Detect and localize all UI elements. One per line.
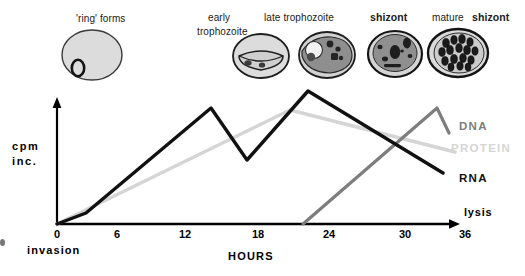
x-tick-36: 36 <box>459 228 471 240</box>
legend-label-dna: DNA <box>459 120 488 132</box>
x-axis-start-annotation: invasion <box>27 244 80 256</box>
legend-label-rna: RNA <box>459 172 488 184</box>
x-tick-12: 12 <box>179 228 191 240</box>
legend-label-protein: PROTEIN <box>451 142 511 154</box>
x-axis-end-annotation: lysis <box>464 206 492 218</box>
x-tick-0: 0 <box>54 228 60 240</box>
x-axis-label: HOURS <box>228 250 274 262</box>
figure-canvas: 'ring' forms early trophozoite late trop… <box>0 0 525 276</box>
x-tick-30: 30 <box>399 228 411 240</box>
x-tick-24: 24 <box>323 228 335 240</box>
chart-axes <box>53 97 460 229</box>
series-line-rna <box>57 91 443 224</box>
x-tick-18: 18 <box>252 228 264 240</box>
x-tick-6: 6 <box>114 228 120 240</box>
series-line-protein <box>57 110 455 224</box>
y-axis-label-line2: inc. <box>12 155 37 167</box>
y-axis-label-line1: cpm <box>12 140 39 152</box>
crop-edge-artifact <box>0 239 5 246</box>
series-line-dna <box>303 108 449 224</box>
